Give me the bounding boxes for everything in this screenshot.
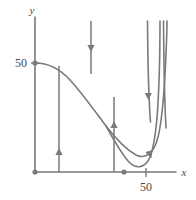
left-upward-field-line: [55, 66, 62, 172]
inner-curve-down-arrowhead: [145, 150, 152, 158]
middle-up-arrowhead: [110, 121, 117, 128]
y-tick-label-50: 50: [15, 56, 27, 70]
x-tick-label-50: 50: [140, 180, 152, 194]
axes-group: [35, 17, 176, 172]
top-downward-field-line: [87, 21, 94, 74]
phase-plane-plot: y x 50 50: [0, 0, 196, 200]
top-down-arrowhead: [87, 45, 94, 52]
dot-equilibrium-on-x-axis: [121, 169, 126, 174]
right-down-arrowhead: [145, 93, 152, 100]
right-asymptote-curve-a: [148, 21, 151, 122]
figure-container: y x 50 50: [0, 0, 196, 200]
dot-origin: [32, 169, 37, 174]
x-axis-label: x: [181, 166, 187, 178]
left-up-arrowhead: [55, 148, 62, 155]
y-axis-label: y: [29, 4, 35, 16]
